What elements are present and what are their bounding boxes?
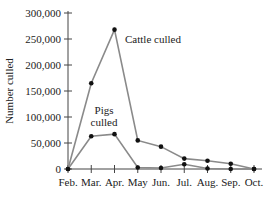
x-tick-label: Jun. [152,176,170,188]
x-tick-label: Mar. [81,176,102,188]
x-tick-label: Apr. [105,176,125,188]
y-tick-label: 50,000 [31,137,62,149]
y-axis-title: Number culled [3,58,15,124]
y-tick-label: 100,000 [25,111,61,123]
cattle-annotation: Cattle culled [125,33,181,45]
x-tick-label: May [128,176,149,188]
y-tick-label: 300,000 [25,7,61,19]
data-point [135,165,140,170]
data-point [135,138,140,143]
data-point [159,166,164,171]
data-point [252,167,257,172]
data-point [66,167,71,172]
x-tick-label: Sep. [221,176,241,188]
data-point [112,132,117,137]
x-tick-label: Aug. [197,176,219,188]
data-point [89,81,94,86]
x-tick-label: Feb. [58,176,78,188]
data-point [159,144,164,149]
data-point [112,27,117,32]
data-point [205,166,210,171]
data-point [182,162,187,167]
data-point [228,162,233,167]
data-point [182,156,187,161]
x-tick-label: Jul. [176,176,192,188]
data-point [89,134,94,139]
data-point [205,158,210,163]
x-tick-label: Oct. [245,176,264,188]
y-tick-label: 250,000 [25,33,61,45]
data-point [228,167,233,172]
y-axis: 050,000100,000150,000200,000250,000300,0… [25,7,72,175]
pigs-annotation-line1: Pigs [95,104,114,116]
y-tick-label: 150,000 [25,85,61,97]
y-tick-label: 0 [56,163,62,175]
y-tick-label: 200,000 [25,59,61,71]
series-group [66,27,257,171]
pigs-annotation-line2: culled [91,116,118,128]
line-chart: 050,000100,000150,000200,000250,000300,0… [0,0,278,200]
